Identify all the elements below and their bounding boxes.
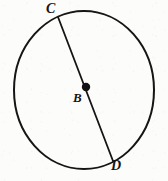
geometry-figure: C B D (0, 0, 168, 181)
point-label-c: C (46, 2, 55, 16)
center-point-dot (82, 83, 90, 91)
circle-diagram-canvas (0, 0, 168, 181)
point-label-b: B (73, 91, 82, 104)
point-label-d: D (111, 159, 121, 173)
